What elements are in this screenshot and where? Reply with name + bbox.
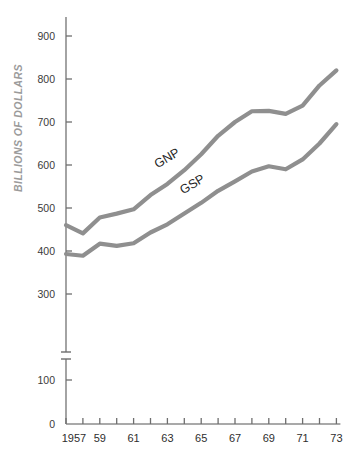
y-tick-label: 400: [37, 245, 55, 257]
x-tick-label: 65: [195, 432, 207, 444]
x-tick-label: 69: [263, 432, 275, 444]
y-tick-label: 800: [37, 73, 55, 85]
series-label-gsp: GSP: [177, 172, 207, 198]
y-tick-label: 900: [37, 30, 55, 42]
x-tick-label: 59: [94, 432, 106, 444]
chart-axes: [61, 17, 340, 424]
y-tick-label: 600: [37, 159, 55, 171]
y-axis-title: BILLIONS OF DOLLARS: [12, 64, 24, 192]
series-label-gnp: GNP: [152, 145, 182, 171]
y-zero-label: 0: [49, 418, 55, 430]
x-tick-label: 1957: [62, 432, 86, 444]
y-axis-tick-labels: 1003004005006007008009000: [37, 30, 55, 430]
chart-series-group: [66, 70, 336, 255]
x-tick-label: 71: [296, 432, 308, 444]
line-chart: BILLIONS OF DOLLARS 10030040050060070080…: [0, 0, 357, 452]
y-tick-label: 500: [37, 202, 55, 214]
x-axis-tick-labels: 19575961636567697173: [62, 432, 343, 444]
y-tick-label: 100: [37, 374, 55, 386]
y-tick-label: 300: [37, 288, 55, 300]
y-tick-label: 700: [37, 116, 55, 128]
series-line-gsp: [66, 124, 336, 256]
series-line-gnp: [66, 70, 336, 233]
x-tick-label: 61: [127, 432, 139, 444]
x-tick-label: 63: [161, 432, 173, 444]
x-tick-label: 73: [330, 432, 342, 444]
x-tick-label: 67: [229, 432, 241, 444]
chart-container: BILLIONS OF DOLLARS 10030040050060070080…: [0, 0, 357, 452]
